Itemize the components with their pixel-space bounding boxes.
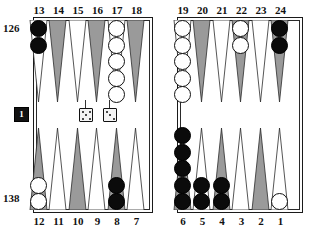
checker-white-point-19[interactable] <box>174 37 191 54</box>
checker-black-point-13[interactable] <box>30 37 47 54</box>
checker-white-point-19[interactable] <box>174 20 191 37</box>
point-triangle-20[interactable] <box>192 20 211 102</box>
die-pip <box>82 118 84 120</box>
checker-black-point-4[interactable] <box>213 177 230 194</box>
checker-white-point-12[interactable] <box>30 193 47 210</box>
die-pip <box>109 114 111 116</box>
point-triangle-15[interactable] <box>68 20 87 102</box>
point-number-17: 17 <box>109 3 125 17</box>
checker-black-point-13[interactable] <box>30 20 47 37</box>
die-pip <box>82 111 84 113</box>
point-number-6: 6 <box>175 214 191 228</box>
checker-white-point-17[interactable] <box>108 53 125 70</box>
checker-black-point-6[interactable] <box>174 160 191 177</box>
checker-black-point-6[interactable] <box>174 144 191 161</box>
checker-white-point-12[interactable] <box>30 177 47 194</box>
point-number-13: 13 <box>31 3 47 17</box>
point-number-21: 21 <box>214 3 230 17</box>
point-number-24: 24 <box>273 3 289 17</box>
top-point-numbers: 131415161718192021222324 <box>0 3 309 17</box>
doubling-cube[interactable]: 1 <box>14 107 29 122</box>
point-triangle-11[interactable] <box>48 128 67 210</box>
point-number-7: 7 <box>129 214 145 228</box>
pip-count-top: 126 <box>3 22 20 34</box>
point-number-14: 14 <box>51 3 67 17</box>
die-pip <box>113 118 115 120</box>
checker-white-point-17[interactable] <box>108 70 125 87</box>
point-triangle-16[interactable] <box>87 20 106 102</box>
point-triangle-3[interactable] <box>231 128 250 210</box>
checker-black-point-24[interactable] <box>271 37 288 54</box>
die-left[interactable]: 5 <box>79 108 93 122</box>
die-right[interactable]: 3 <box>103 108 117 122</box>
checker-black-point-5[interactable] <box>193 193 210 210</box>
point-triangle-18[interactable] <box>126 20 145 102</box>
point-triangle-7[interactable] <box>126 128 145 210</box>
checker-white-point-19[interactable] <box>174 70 191 87</box>
checker-white-point-22[interactable] <box>232 20 249 37</box>
point-triangle-2[interactable] <box>251 128 270 210</box>
point-number-20: 20 <box>195 3 211 17</box>
point-number-8: 8 <box>109 214 125 228</box>
checker-white-point-17[interactable] <box>108 86 125 103</box>
point-number-4: 4 <box>214 214 230 228</box>
die-pip <box>89 111 91 113</box>
checker-white-point-1[interactable] <box>271 193 288 210</box>
point-number-10: 10 <box>70 214 86 228</box>
bottom-point-numbers: 121110987654321 <box>0 214 309 228</box>
backgammon-board: 131415161718192021222324 121110987654321… <box>0 0 309 230</box>
checker-white-point-17[interactable] <box>108 37 125 54</box>
checker-black-point-5[interactable] <box>193 177 210 194</box>
doubling-cube-value: 1 <box>19 110 24 119</box>
checker-black-point-4[interactable] <box>213 193 230 210</box>
point-number-19: 19 <box>175 3 191 17</box>
point-number-16: 16 <box>90 3 106 17</box>
die-pip <box>106 111 108 113</box>
point-number-23: 23 <box>253 3 269 17</box>
point-triangle-14[interactable] <box>48 20 67 102</box>
point-triangle-9[interactable] <box>87 128 106 210</box>
point-number-3: 3 <box>234 214 250 228</box>
point-triangle-21[interactable] <box>212 20 231 102</box>
point-number-18: 18 <box>129 3 145 17</box>
checker-white-point-19[interactable] <box>174 86 191 103</box>
point-number-1: 1 <box>273 214 289 228</box>
point-number-5: 5 <box>195 214 211 228</box>
point-number-9: 9 <box>90 214 106 228</box>
point-triangle-23[interactable] <box>251 20 270 102</box>
checker-black-point-8[interactable] <box>108 193 125 210</box>
point-number-22: 22 <box>234 3 250 17</box>
point-number-12: 12 <box>31 214 47 228</box>
checker-white-point-17[interactable] <box>108 20 125 37</box>
point-triangle-10[interactable] <box>68 128 87 210</box>
pip-count-bottom: 138 <box>3 192 20 204</box>
die-pip <box>85 114 87 116</box>
die-pip <box>89 118 91 120</box>
checker-black-point-8[interactable] <box>108 177 125 194</box>
checker-white-point-22[interactable] <box>232 37 249 54</box>
checker-black-point-24[interactable] <box>271 20 288 37</box>
checker-white-point-19[interactable] <box>174 53 191 70</box>
point-number-11: 11 <box>51 214 67 228</box>
point-number-15: 15 <box>70 3 86 17</box>
checker-black-point-6[interactable] <box>174 127 191 144</box>
checker-black-point-6[interactable] <box>174 193 191 210</box>
checker-black-point-6[interactable] <box>174 177 191 194</box>
point-number-2: 2 <box>253 214 269 228</box>
